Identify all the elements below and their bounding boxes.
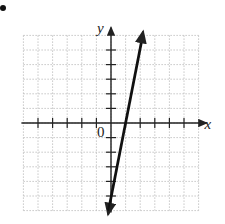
origin-label: 0	[97, 124, 105, 140]
x-axis-label: x	[204, 116, 212, 132]
graph: xy0	[0, 0, 225, 224]
y-axis-label: y	[95, 20, 104, 36]
